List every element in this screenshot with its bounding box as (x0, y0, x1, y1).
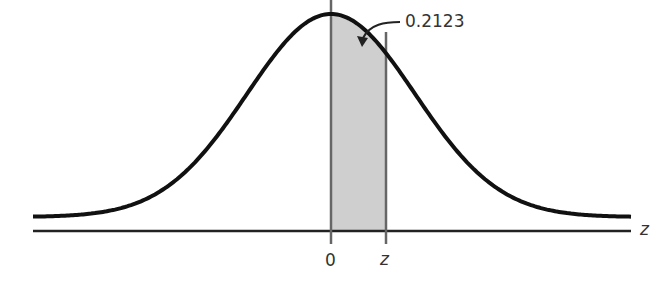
axis-label-z: z (640, 219, 649, 239)
normal-curve-chart (0, 0, 669, 287)
tick-label-z: z (380, 249, 389, 269)
shaded-area (331, 14, 386, 231)
tick-label-zero: 0 (325, 250, 336, 270)
annotation-label: 0.2123 (405, 11, 464, 31)
